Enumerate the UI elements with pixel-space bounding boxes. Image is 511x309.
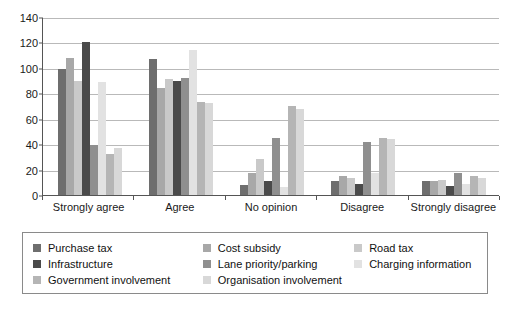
- bar: [197, 102, 205, 195]
- legend-label: Purchase tax: [48, 243, 112, 254]
- legend-swatch-icon: [33, 244, 41, 252]
- bar: [66, 58, 74, 195]
- bar: [272, 138, 280, 195]
- bar-group: [226, 18, 317, 195]
- bar: [355, 184, 363, 195]
- legend-item: Lane priority/parking: [203, 259, 350, 270]
- x-axis-category-label: No opinion: [225, 201, 316, 213]
- bar: [288, 106, 296, 195]
- legend-swatch-icon: [354, 244, 362, 252]
- x-axis-labels: Strongly agreeAgreeNo opinionDisagreeStr…: [43, 201, 499, 213]
- legend-label: Organisation involvement: [218, 275, 342, 286]
- y-axis-tick-label: 40: [26, 140, 43, 151]
- legend-swatch-icon: [203, 260, 211, 268]
- legend-swatch-icon: [33, 260, 41, 268]
- legend-item: Cost subsidy: [203, 243, 350, 254]
- bar: [363, 142, 371, 195]
- legend-swatch-icon: [203, 276, 211, 284]
- bar: [454, 173, 462, 195]
- legend-item: Organisation involvement: [203, 275, 350, 286]
- bar: [470, 176, 478, 195]
- bar-group: [135, 18, 226, 195]
- bar-group: [317, 18, 408, 195]
- bar-chart: 020406080100120140 Strongly agreeAgreeNo…: [0, 0, 511, 225]
- bar: [58, 69, 66, 195]
- chart-legend: Purchase taxCost subsidyRoad taxInfrastr…: [22, 232, 488, 294]
- bar: [82, 42, 90, 195]
- legend-grid: Purchase taxCost subsidyRoad taxInfrastr…: [33, 240, 477, 288]
- legend-item: Purchase tax: [33, 243, 199, 254]
- bar: [106, 154, 114, 195]
- legend-item: Government involvement: [33, 275, 199, 286]
- bar: [438, 180, 446, 195]
- x-axis-tick-mark: [225, 196, 226, 200]
- legend-label: Government involvement: [48, 275, 170, 286]
- legend-label: Road tax: [369, 243, 413, 254]
- x-axis-category-label: Disagree: [317, 201, 408, 213]
- bar: [478, 178, 486, 195]
- bar: [446, 186, 454, 195]
- bar: [296, 109, 304, 195]
- bar: [422, 181, 430, 195]
- y-axis-tick-label: 80: [26, 89, 43, 100]
- legend-label: Infrastructure: [48, 259, 113, 270]
- bar: [379, 138, 387, 195]
- y-axis-tick-label: 20: [26, 165, 43, 176]
- bar-group: [44, 18, 135, 195]
- bar: [387, 139, 395, 195]
- legend-label: Cost subsidy: [218, 243, 281, 254]
- bar: [157, 88, 165, 195]
- bar: [347, 178, 355, 195]
- y-axis-tick-label: 60: [26, 114, 43, 125]
- bar: [339, 176, 347, 195]
- x-axis-category-label: Strongly agree: [43, 201, 134, 213]
- x-axis-category-label: Strongly disagree: [408, 201, 499, 213]
- y-axis-tick-label: 120: [20, 38, 43, 49]
- x-axis-tick-mark: [42, 196, 43, 200]
- x-axis-tick-mark: [499, 196, 500, 200]
- legend-swatch-icon: [203, 244, 211, 252]
- bar: [264, 181, 272, 195]
- bar: [173, 81, 181, 195]
- bar: [74, 81, 82, 195]
- x-axis-category-label: Agree: [134, 201, 225, 213]
- bar: [462, 184, 470, 195]
- bar: [149, 59, 157, 195]
- bar: [114, 148, 122, 195]
- bar: [181, 78, 189, 195]
- bar: [256, 159, 264, 195]
- y-axis-tick-label: 140: [20, 13, 43, 24]
- bar: [331, 181, 339, 195]
- bar-groups: [44, 18, 499, 195]
- bar: [430, 181, 438, 195]
- bar: [371, 173, 379, 195]
- bar: [165, 79, 173, 195]
- bar: [98, 82, 106, 195]
- bar: [205, 103, 213, 195]
- legend-item: Charging information: [354, 259, 477, 270]
- legend-label: Lane priority/parking: [218, 259, 318, 270]
- bar: [280, 187, 288, 195]
- bar-group: [408, 18, 499, 195]
- x-axis-tick-mark: [408, 196, 409, 200]
- legend-item: Road tax: [354, 243, 477, 254]
- legend-label: Charging information: [369, 259, 471, 270]
- legend-item: Infrastructure: [33, 259, 199, 270]
- legend-swatch-icon: [354, 260, 362, 268]
- legend-swatch-icon: [33, 276, 41, 284]
- bar: [189, 50, 197, 195]
- bar: [90, 145, 98, 195]
- x-axis-tick-mark: [133, 196, 134, 200]
- bar: [248, 173, 256, 195]
- y-axis-tick-label: 100: [20, 63, 43, 74]
- plot-area: 020406080100120140: [42, 18, 499, 196]
- bar: [240, 185, 248, 195]
- x-axis-tick-mark: [316, 196, 317, 200]
